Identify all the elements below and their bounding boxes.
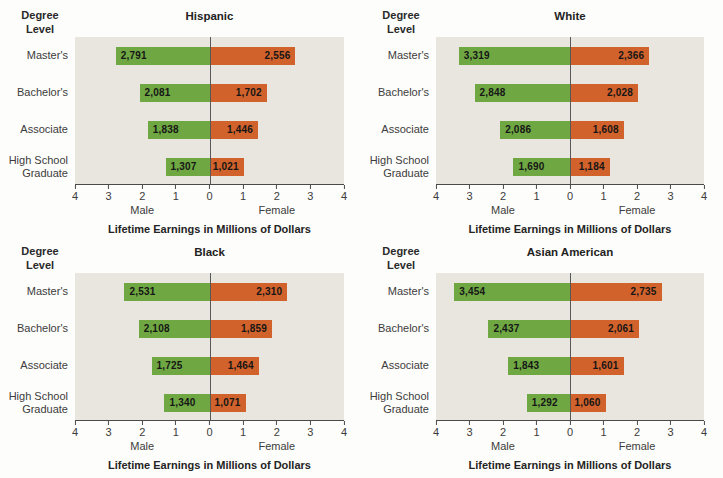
bar-value-label: 1,292: [527, 397, 558, 408]
male-half: 2,086: [436, 111, 570, 148]
x-axis-ticks: 432101234: [436, 421, 704, 440]
male-bar: 1,292: [527, 394, 570, 412]
female-half: 2,366: [570, 37, 704, 74]
bar-value-label: 2,791: [116, 50, 147, 61]
bar-value-label: 1,843: [508, 360, 539, 371]
category-label: Associate: [366, 347, 436, 384]
male-bar: 1,725: [152, 357, 210, 375]
chart-panel-asian-american: Degree Level Master's Bachelor's Associa…: [362, 241, 722, 476]
male-bar: 1,307: [166, 158, 210, 176]
category-label: High School Graduate: [366, 384, 436, 421]
bar-value-label: 1,340: [164, 397, 195, 408]
bar-value-label: 2,531: [124, 286, 155, 297]
axis-tick-label: 4: [433, 421, 439, 438]
male-bar: 2,081: [140, 84, 210, 102]
male-axis-label: Male: [130, 204, 154, 216]
male-half: 2,531: [75, 273, 210, 310]
female-bar: 1,060: [570, 394, 606, 412]
bar-value-label: 1,446: [227, 124, 258, 135]
plot-column: Black 2,531 2,310 2,108 1,859: [75, 243, 344, 476]
axis-tick-label: 2: [634, 421, 640, 438]
category-label: Master's: [366, 273, 436, 310]
bar-value-label: 2,556: [264, 50, 295, 61]
category-label-column: Degree Level Master's Bachelor's Associa…: [366, 243, 436, 476]
female-bar: 1,702: [210, 84, 267, 102]
male-axis-label: Male: [491, 204, 515, 216]
plot-area: 2,791 2,556 2,081 1,702 1,83: [75, 37, 344, 185]
category-label: Bachelor's: [5, 74, 75, 111]
male-half: 1,725: [75, 347, 210, 384]
male-half: 1,340: [75, 384, 210, 421]
plot-area: 3,454 2,735 2,437 2,061 1,84: [436, 273, 704, 421]
female-half: 2,028: [570, 74, 704, 111]
female-bar: 1,071: [210, 394, 246, 412]
male-half: 1,292: [436, 384, 570, 421]
axis-tick-label: 3: [307, 421, 313, 438]
category-label: Bachelor's: [5, 310, 75, 347]
female-half: 1,060: [570, 384, 704, 421]
category-label-column: Degree Level Master's Bachelor's Associa…: [5, 7, 75, 241]
axis-tick-label: 4: [72, 185, 78, 202]
axis-tick-label: 1: [240, 421, 246, 438]
female-half: 1,859: [210, 310, 345, 347]
axis-tick-label: 4: [701, 185, 707, 202]
axis-tick-label: 3: [466, 421, 472, 438]
category-label: Associate: [5, 347, 75, 384]
gender-labels: Male Female: [75, 440, 344, 456]
axis-tick-label: 0: [567, 421, 573, 438]
axis-tick-label: 1: [533, 421, 539, 438]
axis-tick-label: 3: [667, 185, 673, 202]
male-half: 2,081: [75, 74, 210, 111]
male-bar: 3,319: [459, 47, 570, 65]
degree-level-header: Degree Level: [366, 243, 436, 273]
male-bar: 1,838: [148, 121, 210, 139]
female-axis-label: Female: [619, 204, 656, 216]
axis-tick-label: 4: [701, 421, 707, 438]
male-bar: 2,086: [500, 121, 570, 139]
female-bar: 2,310: [210, 283, 288, 301]
plot-area: 3,319 2,366 2,848 2,028 2,08: [436, 37, 704, 185]
female-bar: 2,735: [570, 283, 662, 301]
bar-value-label: 2,081: [140, 87, 171, 98]
gender-labels: Male Female: [436, 440, 704, 456]
axis-tick-label: 0: [567, 185, 573, 202]
bar-value-label: 2,028: [607, 87, 638, 98]
female-bar: 1,021: [210, 158, 244, 176]
bar-value-label: 2,086: [500, 124, 531, 135]
degree-level-header: Degree Level: [5, 243, 75, 273]
bar-value-label: 2,061: [608, 323, 639, 334]
female-half: 1,464: [210, 347, 345, 384]
female-axis-label: Female: [258, 440, 295, 452]
male-half: 1,843: [436, 347, 570, 384]
female-bar: 2,366: [570, 47, 649, 65]
male-bar: 1,843: [508, 357, 570, 375]
male-half: 1,690: [436, 148, 570, 185]
female-half: 2,061: [570, 310, 704, 347]
bar-value-label: 1,702: [236, 87, 267, 98]
x-axis-title: Lifetime Earnings in Millions of Dollars: [75, 456, 344, 474]
male-axis-label: Male: [130, 440, 154, 452]
axis-tick-label: 2: [139, 421, 145, 438]
bar-value-label: 3,454: [454, 286, 485, 297]
female-bar: 2,556: [210, 47, 296, 65]
bar-value-label: 2,848: [475, 87, 506, 98]
male-axis-label: Male: [491, 440, 515, 452]
x-axis-ticks: 432101234: [436, 185, 704, 204]
bar-value-label: 1,601: [593, 360, 624, 371]
bar-value-label: 1,725: [152, 360, 183, 371]
axis-tick-label: 1: [600, 185, 606, 202]
male-bar: 1,690: [513, 158, 570, 176]
bar-value-label: 3,319: [459, 50, 490, 61]
x-axis-title: Lifetime Earnings in Millions of Dollars: [75, 220, 344, 238]
bar-value-label: 1,184: [579, 161, 610, 172]
female-half: 1,446: [210, 111, 345, 148]
bar-value-label: 1,608: [593, 124, 624, 135]
female-bar: 1,464: [210, 357, 259, 375]
category-label: Bachelor's: [366, 74, 436, 111]
category-label: Associate: [366, 111, 436, 148]
category-label-column: Degree Level Master's Bachelor's Associa…: [366, 7, 436, 241]
bar-value-label: 2,437: [488, 323, 519, 334]
bar-value-label: 1,859: [241, 323, 272, 334]
bar-value-label: 1,071: [214, 397, 245, 408]
male-half: 2,437: [436, 310, 570, 347]
